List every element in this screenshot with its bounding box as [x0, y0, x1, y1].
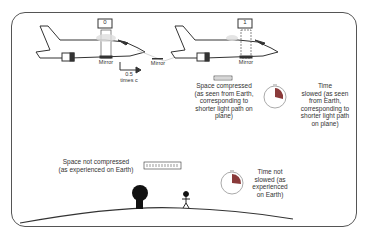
plane-left [36, 19, 145, 73]
ruler-compressed-icon [214, 76, 232, 80]
space-compressed-label: Space compressed (as seen from Earth, co… [180, 82, 268, 120]
light-glow-right [226, 35, 238, 41]
tree-icon [132, 185, 148, 209]
counter-left: 0 [101, 19, 109, 27]
person-icon [182, 192, 190, 209]
mirror-label-right: Mirror [234, 59, 258, 65]
plane-right [171, 19, 278, 61]
time-slowed-label: Time slowed (as seen from Earth, corresp… [290, 82, 360, 128]
mirror-label-ground: Mirror [146, 60, 170, 66]
mirror-label-left: Mirror [94, 59, 118, 65]
velocity-label: 0.5 times c [115, 71, 143, 83]
clock-not-slowed-icon [221, 170, 243, 194]
light-glow-left [96, 34, 116, 42]
earth-ground [20, 208, 293, 223]
counter-right: 1 [241, 19, 249, 27]
time-not-slowed-label: Time not slowed (as experienced on Earth… [245, 168, 295, 198]
ruler-uncompressed-icon [144, 162, 181, 169]
space-not-compressed-label: Space not compressed (as experienced on … [50, 158, 142, 173]
